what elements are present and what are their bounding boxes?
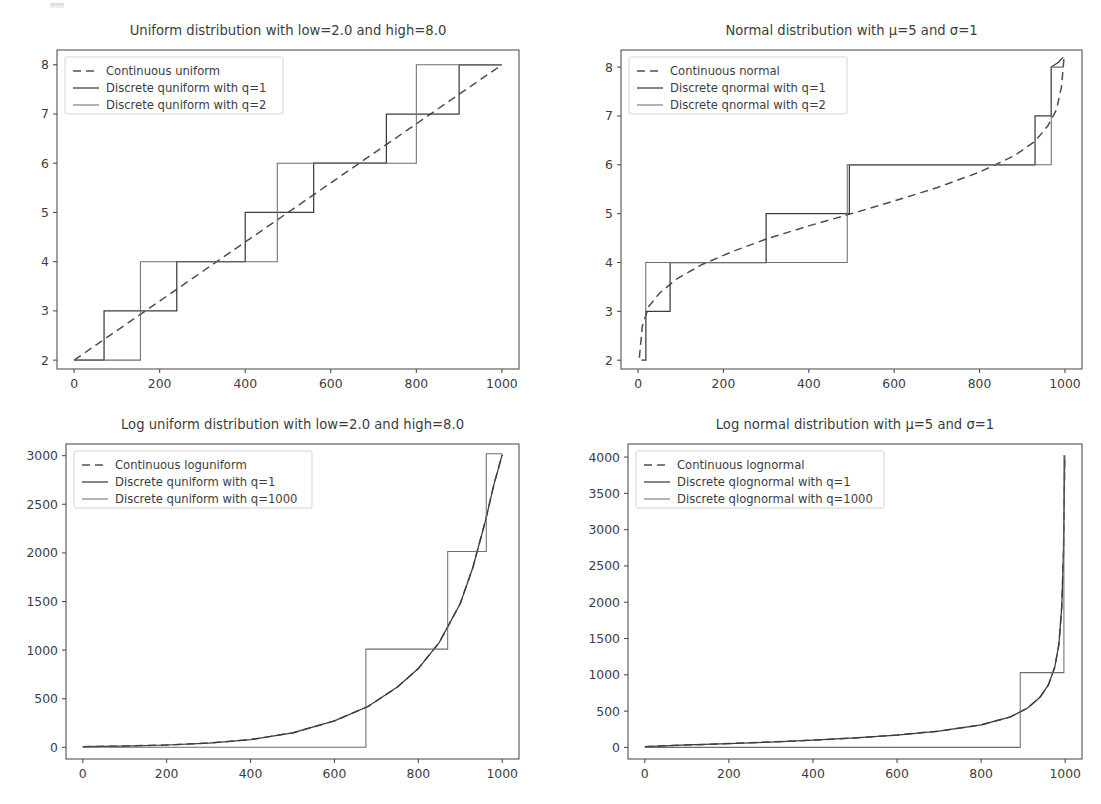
chart-normal: Normal distribution with μ=5 and σ=10200… — [550, 0, 1101, 402]
x-tick-label: 800 — [968, 376, 992, 391]
x-tick-label: 200 — [148, 376, 172, 391]
legend-label: Discrete qnormal with q=2 — [670, 98, 826, 112]
x-tick-label: 200 — [155, 766, 179, 781]
y-tick-label: 2500 — [588, 558, 620, 573]
x-tick-label: 0 — [634, 376, 642, 391]
y-tick-label: 500 — [596, 704, 620, 719]
legend-label: Discrete qnormal with q=1 — [670, 81, 826, 95]
legend-label: Continuous lognormal — [677, 458, 804, 472]
y-tick-label: 4000 — [588, 450, 620, 465]
x-tick-label: 400 — [233, 376, 257, 391]
x-tick-label: 200 — [712, 376, 736, 391]
y-tick-label: 8 — [41, 57, 49, 72]
chart-uniform: Uniform distribution with low=2.0 and hi… — [0, 0, 550, 402]
x-tick-label: 600 — [885, 766, 909, 781]
y-tick-label: 2500 — [26, 497, 58, 512]
x-tick-label: 0 — [641, 766, 649, 781]
legend-label: Continuous loguniform — [115, 458, 247, 472]
y-tick-label: 4 — [605, 255, 613, 270]
y-tick-label: 3 — [41, 303, 49, 318]
panel-normal: Normal distribution with μ=5 and σ=10200… — [550, 0, 1101, 402]
x-tick-label: 400 — [239, 766, 263, 781]
y-tick-label: 3000 — [26, 448, 58, 463]
y-tick-label: 0 — [612, 740, 620, 755]
y-tick-label: 1000 — [588, 667, 620, 682]
legend-label: Continuous uniform — [106, 64, 220, 78]
chart-title: Log normal distribution with μ=5 and σ=1 — [716, 417, 994, 432]
x-tick-label: 400 — [797, 376, 821, 391]
x-tick-label: 1000 — [486, 766, 518, 781]
legend-label: Discrete quniform with q=1 — [115, 475, 275, 489]
y-tick-label: 0 — [50, 740, 58, 755]
panel-lognormal: Log normal distribution with μ=5 and σ=1… — [550, 402, 1101, 804]
x-tick-label: 400 — [801, 766, 825, 781]
chart-lognormal: Log normal distribution with μ=5 and σ=1… — [550, 402, 1101, 804]
chart-title: Normal distribution with μ=5 and σ=1 — [725, 23, 977, 38]
y-tick-label: 2 — [41, 353, 49, 368]
x-tick-label: 800 — [407, 766, 431, 781]
y-tick-label: 2 — [605, 353, 613, 368]
x-tick-label: 0 — [79, 766, 87, 781]
y-tick-label: 2000 — [588, 595, 620, 610]
y-tick-label: 1500 — [588, 631, 620, 646]
y-tick-label: 6 — [41, 156, 49, 171]
x-tick-label: 1000 — [486, 376, 518, 391]
chart-title: Log uniform distribution with low=2.0 an… — [121, 417, 464, 432]
x-tick-label: 600 — [319, 376, 343, 391]
y-tick-label: 7 — [605, 108, 613, 123]
y-tick-label: 5 — [605, 206, 613, 221]
y-tick-label: 8 — [605, 60, 613, 75]
panel-loguniform: Log uniform distribution with low=2.0 an… — [0, 402, 550, 804]
x-tick-label: 1000 — [1049, 766, 1081, 781]
chart-title: Uniform distribution with low=2.0 and hi… — [130, 23, 447, 38]
legend-label: Discrete quniform with q=1000 — [115, 492, 297, 506]
y-tick-label: 5 — [41, 205, 49, 220]
y-tick-label: 500 — [34, 691, 58, 706]
figure-canvas: Uniform distribution with low=2.0 and hi… — [0, 0, 1101, 804]
y-tick-label: 7 — [41, 106, 49, 121]
legend-label: Discrete qlognormal with q=1000 — [677, 492, 873, 506]
x-tick-label: 0 — [70, 376, 78, 391]
x-tick-label: 600 — [323, 766, 347, 781]
x-tick-label: 600 — [882, 376, 906, 391]
legend-label: Continuous normal — [670, 64, 780, 78]
x-tick-label: 800 — [969, 766, 993, 781]
y-tick-label: 3500 — [588, 486, 620, 501]
chart-loguniform: Log uniform distribution with low=2.0 an… — [0, 402, 550, 804]
y-tick-label: 3000 — [588, 522, 620, 537]
legend-label: Discrete quniform with q=1 — [106, 81, 266, 95]
y-tick-label: 3 — [605, 304, 613, 319]
legend-label: Discrete quniform with q=2 — [106, 98, 266, 112]
y-tick-label: 6 — [605, 157, 613, 172]
legend-label: Discrete qlognormal with q=1 — [677, 475, 851, 489]
y-tick-label: 1000 — [26, 643, 58, 658]
x-tick-label: 1000 — [1049, 376, 1081, 391]
y-tick-label: 2000 — [26, 545, 58, 560]
panel-uniform: Uniform distribution with low=2.0 and hi… — [0, 0, 550, 402]
x-tick-label: 200 — [717, 766, 741, 781]
y-tick-label: 1500 — [26, 594, 58, 609]
y-tick-label: 4 — [41, 254, 49, 269]
x-tick-label: 800 — [405, 376, 429, 391]
